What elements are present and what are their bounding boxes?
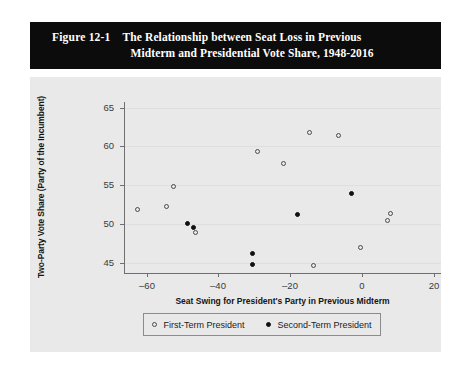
legend-label-first-term: First-Term President	[163, 320, 244, 330]
chart-legend: First-Term President Second-Term Preside…	[143, 313, 381, 336]
y-tick-mark	[120, 146, 124, 147]
scatter-point	[349, 191, 354, 196]
y-tick-mark	[120, 224, 124, 225]
scatter-point	[191, 225, 196, 230]
legend-item-second-term: Second-Term President	[266, 320, 371, 330]
y-tick-label: 45	[88, 258, 114, 268]
y-tick-mark	[120, 185, 124, 186]
scatter-point	[250, 262, 255, 267]
scatter-point	[295, 212, 300, 217]
scatter-point	[281, 161, 286, 166]
scatter-point	[388, 211, 393, 216]
y-tick-label: 60	[88, 141, 114, 151]
open-circle-icon	[152, 322, 157, 327]
filled-circle-icon	[266, 322, 271, 327]
gridline	[125, 146, 441, 147]
y-tick-label: 50	[88, 219, 114, 229]
figure-title: The Relationship between Seat Loss in Pr…	[123, 29, 374, 61]
y-axis-title: Two-Party Vote Share (Party of the Incum…	[36, 95, 47, 279]
scatter-point	[193, 230, 198, 235]
x-tick-label: –60	[132, 280, 162, 291]
scatter-point	[185, 221, 190, 226]
gridline	[125, 108, 441, 109]
figure-title-banner: Figure 12-1 The Relationship between Sea…	[30, 22, 441, 69]
figure-title-inner: Figure 12-1 The Relationship between Sea…	[52, 29, 374, 61]
y-tick-mark	[120, 263, 124, 264]
x-tick-mark	[290, 273, 291, 277]
scatter-point	[171, 184, 176, 189]
x-axis-line	[124, 273, 441, 274]
chart-panel: 4550556065 –60–40–20020 Two-Party Vote S…	[30, 77, 441, 352]
gridline	[125, 224, 441, 225]
scatter-point	[164, 204, 169, 209]
y-tick-label: 55	[88, 180, 114, 190]
x-tick-label: –40	[203, 280, 233, 291]
x-tick-label: 20	[419, 280, 449, 291]
y-tick-mark	[120, 108, 124, 109]
legend-item-first-term: First-Term President	[152, 320, 244, 330]
scatter-point	[135, 207, 140, 212]
scatter-point	[358, 245, 363, 250]
x-tick-label: –20	[275, 280, 305, 291]
x-axis-title: Seat Swing for President's Party in Prev…	[124, 296, 441, 306]
scatter-point	[255, 149, 260, 154]
scatter-point	[307, 130, 312, 135]
y-axis-line	[124, 102, 125, 273]
x-tick-mark	[434, 273, 435, 277]
y-tick-label: 65	[88, 103, 114, 113]
x-tick-mark	[147, 273, 148, 277]
figure-number: Figure 12-1	[52, 29, 111, 45]
scatter-point	[250, 251, 255, 256]
figure-page: Figure 12-1 The Relationship between Sea…	[0, 0, 471, 376]
x-tick-mark	[218, 273, 219, 277]
scatter-point	[336, 133, 341, 138]
figure-title-line-1: The Relationship between Seat Loss in Pr…	[123, 31, 362, 43]
figure-title-line-2: Midterm and Presidential Vote Share, 194…	[123, 45, 374, 61]
legend-label-second-term: Second-Term President	[277, 320, 371, 330]
scatter-point	[385, 218, 390, 223]
gridline	[125, 263, 441, 264]
x-tick-mark	[362, 273, 363, 277]
scatter-point	[311, 263, 316, 268]
x-tick-label: 0	[347, 280, 377, 291]
